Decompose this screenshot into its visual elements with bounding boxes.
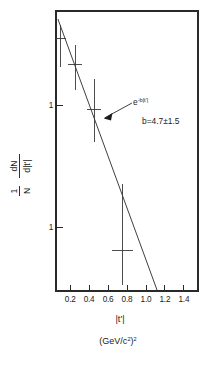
svg-text:e-b|t'|: e-b|t'| <box>133 97 148 107</box>
arrow-head-icon <box>104 113 113 121</box>
figure-container: 1 1 0.2 0.4 0.6 0.8 1.0 1.2 1.4 <box>0 0 210 367</box>
fit-function-annotation: e-b|t'| <box>133 97 148 107</box>
x-axis-title-text: |t'| <box>115 314 124 324</box>
data-point <box>112 184 134 285</box>
data-point <box>56 25 66 67</box>
annotation-leader <box>104 103 132 121</box>
x-axis-title: |t'| <box>115 314 124 324</box>
x-axis-ticks <box>70 285 184 291</box>
fit-parameter-annotation: b=4.7±1.5 <box>142 116 180 126</box>
plot-frame <box>56 11 198 291</box>
y-tick-label-lower: 1 <box>49 223 54 232</box>
fit-function-exponent: -b|t'| <box>138 97 149 103</box>
scatter-plot: 1 1 0.2 0.4 0.6 0.8 1.0 1.2 1.4 <box>0 0 210 367</box>
x-tick-label: 1.0 <box>141 295 152 304</box>
y-axis-label-prefix-num: 1 <box>9 188 19 193</box>
x-axis-tick-labels: 0.2 0.4 0.6 0.8 1.0 1.2 1.4 <box>65 295 190 304</box>
x-tick-label: 0.4 <box>84 295 95 304</box>
x-axis-units: (GeV/c2)2 <box>99 336 136 346</box>
y-axis-label: 1 N dN d|t'| <box>9 154 32 196</box>
y-tick-label-upper: 1 <box>49 101 54 110</box>
x-tick-label: 1.4 <box>179 295 190 304</box>
x-tick-label: 1.2 <box>160 295 171 304</box>
x-tick-label: 0.6 <box>103 295 114 304</box>
x-axis-units-base: (GeV/c <box>99 336 128 346</box>
fit-parameter-label: b=4.7±1.5 <box>142 116 180 126</box>
svg-text:(GeV/c2)2: (GeV/c2)2 <box>99 336 136 346</box>
x-tick-label: 0.2 <box>65 295 76 304</box>
x-tick-label: 0.8 <box>122 295 133 304</box>
y-axis-label-prefix-den: N <box>22 188 32 194</box>
y-axis-label-numerator: dN <box>9 161 19 172</box>
data-points <box>56 25 133 285</box>
x-axis-units-sup-outer: 2 <box>134 336 137 342</box>
y-axis-label-denominator: d|t'| <box>22 159 32 172</box>
fit-line <box>58 19 157 291</box>
